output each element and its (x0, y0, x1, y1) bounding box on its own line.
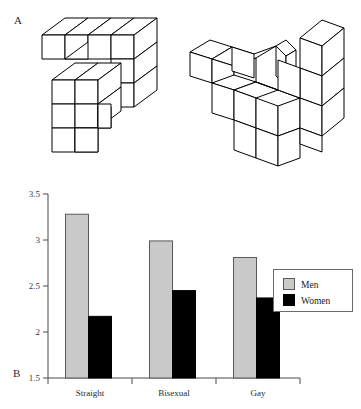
y-tick-label-2: 2 (36, 327, 41, 337)
bar-men-gay (234, 257, 257, 378)
panel-a: A (0, 0, 361, 178)
x-tick-labels: Straight Bisexual Gay (76, 388, 266, 398)
panel-a-label: A (14, 14, 22, 26)
legend-label-men: Men (301, 280, 319, 290)
bar-men-straight (66, 214, 89, 378)
legend-label-women: Women (301, 296, 331, 306)
right-block-figure (190, 20, 344, 166)
chart-legend: Men Women (274, 270, 353, 312)
x-tick-label-straight: Straight (76, 388, 105, 398)
y-tick-label-2-5: 2.5 (29, 281, 41, 291)
panel-b: B 3.5 3 2.5 2 1.5 (0, 178, 361, 409)
x-tick-label-gay: Gay (251, 388, 266, 398)
x-tick-marks (48, 378, 300, 384)
legend-swatch-men (284, 279, 295, 290)
y-tick-label-3: 3 (36, 235, 41, 245)
figure-root: A (0, 0, 361, 409)
bar-women-bisexual (173, 291, 196, 378)
y-tick-label-3-5: 3.5 (29, 189, 41, 199)
bar-women-straight (89, 316, 112, 378)
x-tick-label-bisexual: Bisexual (158, 388, 190, 398)
block-figures-svg (0, 0, 361, 178)
panel-b-label: B (13, 367, 21, 379)
y-tick-label-1-5: 1.5 (29, 373, 41, 383)
bar-men-bisexual (150, 241, 173, 378)
bars-layer (66, 214, 280, 378)
left-block-figure (42, 18, 157, 152)
y-tick-labels: 3.5 3 2.5 2 1.5 (29, 189, 41, 383)
y-tick-marks (43, 194, 48, 378)
bar-chart: 3.5 3 2.5 2 1.5 Straight Bisexual Gay (0, 178, 361, 409)
legend-swatch-women (284, 295, 295, 306)
